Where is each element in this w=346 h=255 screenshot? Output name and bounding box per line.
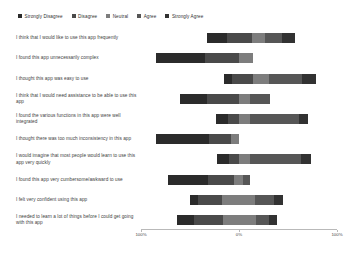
plot-area (141, 28, 337, 230)
bar-segment (250, 154, 301, 164)
bar-segment (299, 114, 308, 124)
bar-stack (168, 175, 249, 185)
bar-row[interactable] (141, 134, 337, 144)
legend-item[interactable]: Agree (137, 14, 156, 19)
bar-segment (180, 94, 206, 104)
bar-segment (229, 154, 239, 164)
bar-segment (250, 94, 271, 104)
x-axis-tick-label: 0% (236, 232, 242, 238)
bar-segment (252, 33, 266, 43)
bar-segment (198, 195, 223, 205)
bar-row[interactable] (141, 215, 337, 225)
bar-segment (302, 74, 317, 84)
chart-legend: Strongly DisagreeDisagreeNeutralAgreeStr… (18, 10, 203, 22)
bar-segment (227, 33, 252, 43)
bar-row[interactable] (141, 154, 337, 164)
bar-row[interactable] (141, 53, 337, 63)
bar-stack (207, 33, 295, 43)
bar-segment (190, 195, 198, 205)
bar-row[interactable] (141, 114, 337, 124)
likert-chart: Strongly DisagreeDisagreeNeutralAgreeStr… (0, 0, 346, 255)
legend-item[interactable]: Strongly Disagree (18, 14, 63, 19)
bar-segment (282, 33, 295, 43)
bar-stack (190, 195, 283, 205)
bar-segment (207, 33, 228, 43)
bar-segment (223, 215, 255, 225)
bar-row[interactable] (141, 94, 337, 104)
bar-segment (194, 215, 223, 225)
y-axis-label: I found this app unnecessarily complex (16, 55, 138, 61)
bar-segment (250, 114, 299, 124)
bar-segment (234, 175, 243, 185)
legend-item[interactable]: Disagree (72, 14, 98, 19)
square-swatch-icon (72, 14, 76, 18)
legend-item-label: Strongly Disagree (25, 14, 63, 19)
bar-segment (253, 74, 270, 84)
square-swatch-icon (165, 14, 169, 18)
square-swatch-icon (106, 14, 110, 18)
y-axis-label: I found this app very cumbersome/awkward… (16, 177, 138, 183)
bar-segment (209, 134, 232, 144)
bar-stack (216, 114, 307, 124)
bar-segment (301, 154, 311, 164)
legend-item[interactable]: Strongly Agree (165, 14, 203, 19)
bar-segment (243, 175, 250, 185)
y-axis-labels: I think that I would like to use this ap… (16, 28, 138, 230)
legend-item-label: Neutral (113, 14, 128, 19)
bar-segment (224, 74, 232, 84)
bar-row[interactable] (141, 33, 337, 43)
bar-segment (256, 215, 270, 225)
bar-segment (208, 175, 234, 185)
bar-stack (217, 154, 310, 164)
bar-segment (274, 195, 283, 205)
bar-segment (156, 53, 205, 63)
bar-segment (216, 114, 228, 124)
bar-segment (269, 215, 277, 225)
bar-segment (156, 134, 209, 144)
bar-stack (156, 134, 239, 144)
bar-row[interactable] (141, 195, 337, 205)
bar-segment (269, 74, 301, 84)
bar-segment (177, 215, 194, 225)
bar-stack (156, 53, 253, 63)
y-axis-label: I found the various functions in this ap… (16, 113, 138, 125)
x-axis-tick-label: 100% (331, 232, 342, 238)
bar-segment (217, 154, 229, 164)
legend-item[interactable]: Neutral (106, 14, 128, 19)
legend-item-label: Strongly Agree (172, 14, 203, 19)
square-swatch-icon (137, 14, 141, 18)
bar-segment (239, 154, 250, 164)
x-axis-tick-label: 100% (135, 232, 146, 238)
bar-segment (228, 114, 239, 124)
legend-item-label: Agree (144, 14, 157, 19)
square-swatch-icon (18, 14, 22, 18)
bar-row[interactable] (141, 175, 337, 185)
y-axis-label: I think that I would need assistance to … (16, 93, 138, 105)
y-axis-label: I thought there was too much inconsisten… (16, 136, 138, 142)
y-axis-label: I would imagine that most people would l… (16, 153, 138, 165)
bar-segment (222, 195, 254, 205)
bar-segment (265, 33, 282, 43)
bar-stack (180, 94, 270, 104)
bar-segment (207, 94, 239, 104)
bar-stack (224, 74, 316, 84)
bar-segment (231, 134, 239, 144)
y-axis-label: I needed to learn a lot of things before… (16, 214, 138, 226)
bar-segment (239, 53, 253, 63)
bar-segment (205, 53, 239, 63)
y-axis-label: I felt very confident using this app (16, 197, 138, 203)
bar-segment (239, 114, 250, 124)
bar-stack (177, 215, 277, 225)
x-axis-tick-labels: 100%0%100% (141, 232, 337, 240)
bar-segment (168, 175, 207, 185)
y-axis-label: I think that I would like to use this ap… (16, 35, 138, 41)
legend-item-label: Disagree (78, 14, 97, 19)
bar-row[interactable] (141, 74, 337, 84)
y-axis-label: I thought this app was easy to use (16, 76, 138, 82)
bar-segment (232, 74, 253, 84)
bar-segment (255, 195, 275, 205)
bar-segment (239, 94, 250, 104)
